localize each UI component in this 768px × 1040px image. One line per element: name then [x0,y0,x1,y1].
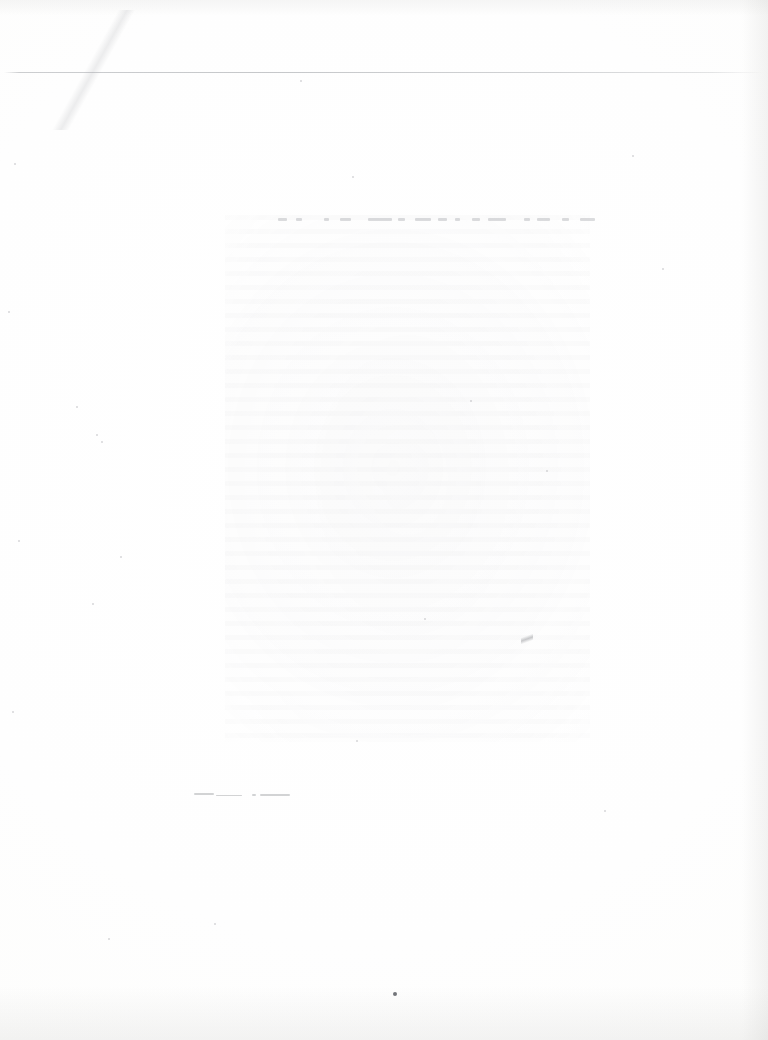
dark-speck [393,992,397,996]
scan-edge-shading-top [0,0,768,16]
paper-background [0,0,768,1040]
paper-crease [0,10,200,130]
paper-scratch [521,624,533,654]
scan-edge-shading-bottom [0,986,768,1040]
foxing-specks [0,0,768,1040]
scanned-page [0,0,768,1040]
faded-heading-line [250,216,595,225]
scan-edge-shading-right [742,0,768,1040]
lower-left-smudges [190,790,450,802]
faded-text-block [225,215,590,742]
header-horizontal-rule [4,72,764,73]
